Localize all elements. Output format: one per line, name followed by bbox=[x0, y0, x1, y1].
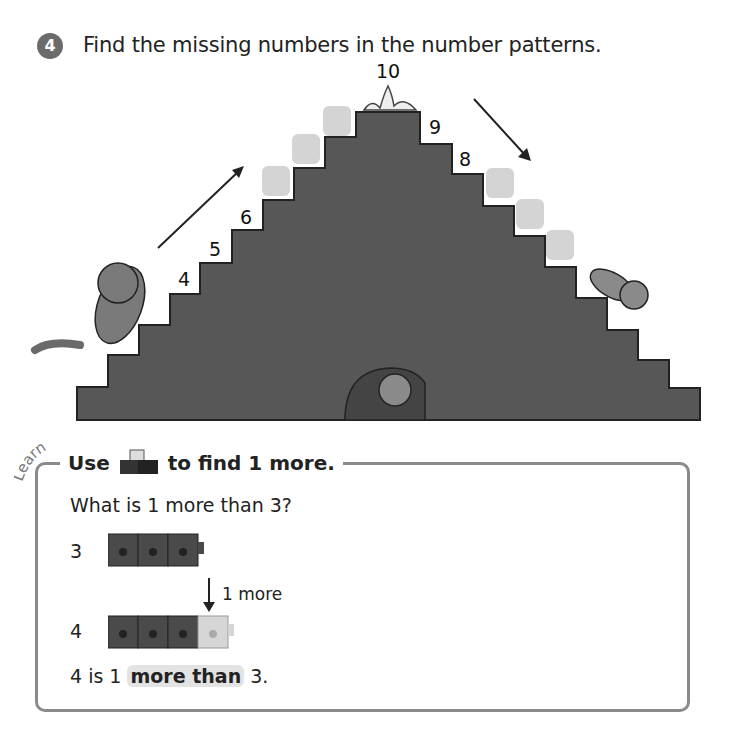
blank-box-9 bbox=[323, 106, 351, 136]
learn-title-use: Use bbox=[68, 451, 110, 475]
row2-label: 4 bbox=[70, 620, 82, 642]
conclusion: 4 is 1 more than 3. bbox=[70, 665, 268, 687]
more-than-highlight: more than bbox=[127, 665, 244, 687]
staircase-illustration bbox=[0, 0, 734, 440]
row1-label: 3 bbox=[70, 540, 82, 562]
down-arrow-icon bbox=[474, 99, 526, 156]
svg-text:Learn: Learn bbox=[14, 438, 49, 484]
blank-box-7 bbox=[262, 166, 290, 196]
blank-box-8 bbox=[292, 134, 320, 164]
stair-label-4: 4 bbox=[178, 268, 190, 290]
stair-label-6: 6 bbox=[240, 206, 252, 228]
learn-title-bar: Use to find 1 more. bbox=[60, 446, 343, 480]
four-cubes bbox=[108, 614, 244, 650]
cat-illustration bbox=[35, 260, 154, 350]
learn-question: What is 1 more than 3? bbox=[70, 494, 292, 516]
stair-label-10: 10 bbox=[376, 60, 400, 82]
stair-label-9: 9 bbox=[429, 116, 441, 138]
down-arrow-icon bbox=[202, 578, 216, 612]
three-cubes bbox=[108, 532, 218, 568]
blank-box-5r bbox=[546, 230, 574, 260]
blank-box-7r bbox=[486, 168, 514, 198]
learn-title-rest: to find 1 more. bbox=[168, 451, 335, 475]
blank-box-6r bbox=[516, 199, 544, 229]
one-more-label: 1 more bbox=[222, 584, 282, 604]
figure-on-top bbox=[364, 86, 416, 110]
up-arrow-icon bbox=[158, 170, 240, 248]
cubes-icon bbox=[116, 448, 162, 478]
stair-label-8: 8 bbox=[459, 148, 471, 170]
stair-label-5: 5 bbox=[209, 238, 221, 260]
